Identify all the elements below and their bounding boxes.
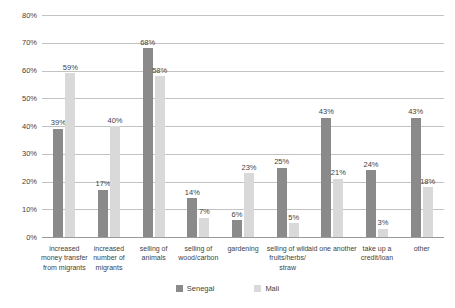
bar-value-label: 5% bbox=[279, 213, 309, 222]
bar-mali-4 bbox=[244, 173, 254, 237]
bar-value-label: 23% bbox=[234, 163, 264, 172]
category-label: selling of wood/carbon bbox=[173, 244, 224, 263]
bar-mali-2 bbox=[155, 76, 165, 237]
bar-senegal-1 bbox=[98, 190, 108, 237]
bar-value-label: 58% bbox=[145, 66, 175, 75]
category-label: aid one another bbox=[307, 244, 358, 253]
legend-item-senegal: Senegal bbox=[176, 284, 215, 293]
category-label: other bbox=[396, 244, 447, 253]
category-label: selling of wild fruits/herbs/ straw bbox=[262, 244, 313, 272]
category-label: selling of animals bbox=[128, 244, 179, 263]
bar-mali-5 bbox=[289, 223, 299, 237]
x-axis-line bbox=[42, 237, 444, 238]
y-tick-label: 60% bbox=[0, 66, 37, 75]
gridline bbox=[42, 154, 444, 155]
bar-mali-6 bbox=[333, 179, 343, 237]
bar-senegal-5 bbox=[277, 168, 287, 237]
category-label: increased number of migrants bbox=[84, 244, 135, 272]
bar-mali-7 bbox=[378, 229, 388, 237]
bar-value-label: 21% bbox=[323, 168, 353, 177]
bar-value-label: 25% bbox=[267, 157, 297, 166]
y-tick-label: 10% bbox=[0, 205, 37, 214]
bar-value-label: 43% bbox=[311, 107, 341, 116]
bar-senegal-0 bbox=[53, 129, 63, 237]
bar-mali-0 bbox=[65, 73, 75, 237]
category-label: take up a credit/loan bbox=[352, 244, 403, 263]
bar-value-label: 40% bbox=[100, 116, 130, 125]
gridline bbox=[42, 71, 444, 72]
bar-mali-8 bbox=[423, 187, 433, 237]
legend-marker-mali-icon bbox=[254, 285, 261, 292]
category-label: increased money transfer from migrants bbox=[39, 244, 90, 272]
legend-label-senegal: Senegal bbox=[187, 284, 215, 293]
legend-label-mali: Mali bbox=[265, 284, 279, 293]
category-label: gardening bbox=[218, 244, 269, 253]
y-tick-label: 30% bbox=[0, 149, 37, 158]
y-tick-label: 80% bbox=[0, 11, 37, 20]
gridline bbox=[42, 43, 444, 44]
bar-value-label: 43% bbox=[401, 107, 431, 116]
y-tick-label: 0% bbox=[0, 233, 37, 242]
bar-senegal-4 bbox=[232, 220, 242, 237]
bar-senegal-2 bbox=[143, 48, 153, 237]
bar-value-label: 7% bbox=[189, 207, 219, 216]
legend-marker-senegal-icon bbox=[176, 285, 183, 292]
bar-value-label: 68% bbox=[133, 38, 163, 47]
bar-value-label: 14% bbox=[177, 188, 207, 197]
bar-value-label: 59% bbox=[55, 63, 85, 72]
bar-value-label: 18% bbox=[413, 177, 443, 186]
gridline bbox=[42, 126, 444, 127]
y-tick-label: 20% bbox=[0, 177, 37, 186]
y-tick-label: 40% bbox=[0, 122, 37, 131]
legend-item-mali: Mali bbox=[254, 284, 279, 293]
bar-senegal-6 bbox=[321, 118, 331, 237]
gridline bbox=[42, 15, 444, 16]
bar-chart: Senegal Mali 0%10%20%30%40%50%60%70%80%3… bbox=[0, 0, 455, 308]
bar-value-label: 24% bbox=[356, 160, 386, 169]
bar-mali-1 bbox=[110, 126, 120, 237]
legend: Senegal Mali bbox=[0, 284, 455, 293]
bar-value-label: 3% bbox=[368, 218, 398, 227]
y-tick-label: 50% bbox=[0, 94, 37, 103]
y-tick-label: 70% bbox=[0, 38, 37, 47]
bar-senegal-3 bbox=[187, 198, 197, 237]
bar-mali-3 bbox=[199, 218, 209, 237]
gridline bbox=[42, 98, 444, 99]
